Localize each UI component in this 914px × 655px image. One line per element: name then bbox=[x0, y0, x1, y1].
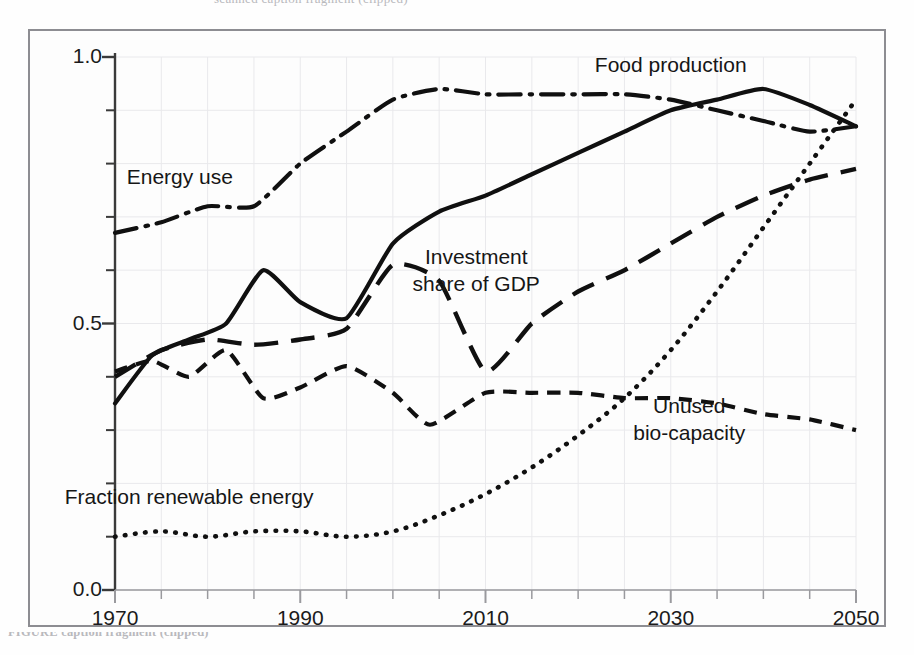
series-annotation: Food production bbox=[595, 52, 747, 77]
x-tick-label: 1970 bbox=[84, 606, 146, 630]
figure-page: scanned caption fragment (clipped) 0.00.… bbox=[0, 0, 914, 655]
y-tick-label: 1.0 bbox=[50, 44, 102, 68]
x-tick-label: 2030 bbox=[640, 606, 702, 630]
x-tick-label: 2050 bbox=[825, 606, 887, 630]
clipped-header-text: scanned caption fragment (clipped) bbox=[0, 0, 914, 22]
clipped-header-label: scanned caption fragment (clipped) bbox=[214, 0, 408, 7]
x-tick-label: 2010 bbox=[455, 606, 517, 630]
series-annotation: bio-capacity bbox=[633, 420, 745, 445]
series-annotation: Energy use bbox=[127, 164, 233, 189]
x-tick-label: 1990 bbox=[269, 606, 331, 630]
y-tick-label: 0.5 bbox=[50, 311, 102, 335]
clipped-caption-text: FIGURE caption fragment (clipped) bbox=[0, 632, 914, 655]
series-annotation: share of GDP bbox=[413, 271, 540, 296]
clipped-caption-label: FIGURE caption fragment (clipped) bbox=[8, 632, 209, 640]
figure-frame: 0.00.51.019701990201020302050Energy useF… bbox=[28, 29, 886, 627]
series-annotation: Investment bbox=[425, 244, 528, 269]
y-tick-label: 0.0 bbox=[50, 577, 102, 601]
line-chart bbox=[30, 31, 884, 625]
series-annotation: Unused bbox=[653, 393, 725, 418]
series-annotation: Fraction renewable energy bbox=[65, 484, 314, 509]
